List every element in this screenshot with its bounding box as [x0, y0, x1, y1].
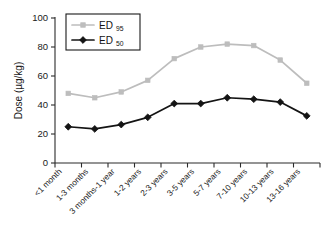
y-tick-label: 100 [32, 12, 48, 23]
data-point-ED95 [278, 58, 283, 63]
legend-label-ED50: ED [99, 35, 113, 46]
data-point-ED95 [172, 56, 177, 61]
data-point-ED50 [171, 100, 178, 107]
x-category-label: 3-5 years [165, 166, 197, 198]
x-axis-category-labels: <1 month1-3 months3 months-1 year1-2 yea… [32, 166, 302, 216]
svg-text:Dose (µg/kg): Dose (µg/kg) [13, 62, 24, 119]
y-axis-ticks [51, 18, 55, 163]
y-axis-tick-labels: 020406080100 [32, 12, 48, 168]
data-point-ED50 [91, 126, 98, 133]
y-axis-title: Dose (µg/kg) [13, 62, 24, 119]
legend-label-ED95: ED [99, 20, 113, 31]
data-point-ED95 [304, 81, 309, 86]
data-point-ED50 [197, 100, 204, 107]
y-tick-label: 0 [43, 157, 48, 168]
chart-container: 020406080100 <1 month1-3 months3 months-… [0, 0, 332, 244]
data-point-ED95 [92, 95, 97, 100]
x-category-label: 1-2 years [112, 166, 144, 198]
data-point-ED95 [66, 91, 71, 96]
y-tick-label: 20 [37, 128, 48, 139]
data-point-ED50 [65, 123, 72, 130]
data-point-ED50 [277, 99, 284, 106]
legend-label-sub-ED50: 50 [116, 40, 124, 47]
x-category-label: 2-3 years [138, 166, 170, 198]
data-point-ED50 [144, 114, 151, 121]
data-point-ED95 [225, 42, 230, 47]
y-tick-label: 60 [37, 70, 48, 81]
data-point-ED95 [145, 78, 150, 83]
line-chart: 020406080100 <1 month1-3 months3 months-… [0, 0, 332, 244]
data-point-ED95 [119, 90, 124, 95]
data-point-ED50 [224, 94, 231, 101]
legend-marker-ED95 [81, 23, 86, 28]
data-point-ED50 [250, 96, 257, 103]
legend-label-sub-ED95: 95 [116, 25, 124, 32]
chart-legend: ED95ED50 [66, 14, 140, 50]
y-tick-label: 80 [37, 41, 48, 52]
data-point-ED50 [303, 112, 310, 119]
data-point-ED50 [118, 121, 125, 128]
series-line-ED95 [68, 44, 307, 98]
series-layer [65, 42, 310, 133]
y-tick-label: 40 [37, 99, 48, 110]
data-point-ED95 [198, 45, 203, 50]
series-line-ED50 [68, 98, 307, 129]
data-point-ED95 [251, 43, 256, 48]
